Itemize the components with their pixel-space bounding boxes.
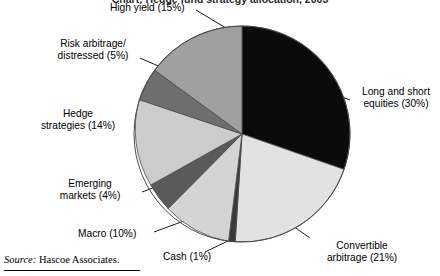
pie-label-macro: Macro (10%) xyxy=(78,228,136,240)
pie-label-high-yield: High yield (15%) xyxy=(110,2,185,14)
pie-chart-figure: Chart: Hedge fund strategy allocation, 2… xyxy=(0,0,440,276)
pie-label-emerging-markets: Emerging markets (4%) xyxy=(38,178,142,203)
pie-label-convertible-arbitrage: Convertible arbitrage (21%) xyxy=(304,240,420,265)
source-text: Hascoe Associates. xyxy=(36,254,119,265)
pie-slices xyxy=(135,26,350,242)
source-prefix: Source: xyxy=(4,254,36,265)
pie-label-long-short-equities: Long and short equities (30%) xyxy=(352,86,440,111)
pie-label-cash: Cash (1%) xyxy=(163,251,211,263)
footer-rule xyxy=(4,270,140,271)
leader-high-yield xyxy=(196,10,226,28)
source-note: Source: Hascoe Associates. xyxy=(4,254,119,265)
pie-label-hedge-strategies: Hedge strategies (14%) xyxy=(22,108,134,133)
pie-label-risk-arbitrage: Risk arbitrage/ distressed (5%) xyxy=(38,38,148,63)
